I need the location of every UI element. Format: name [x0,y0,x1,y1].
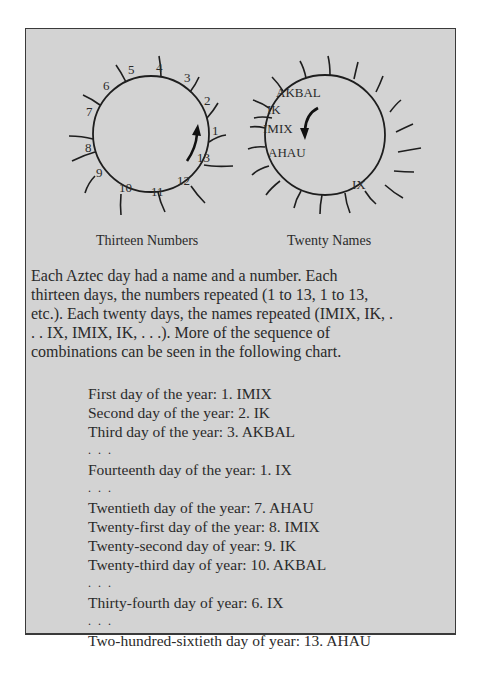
chart-row: Fourteenth day of the year: 1. IX [88,460,371,479]
chart-row: Twenty-first day of the year: 8. IMIX [88,517,371,536]
svg-text:IK: IK [267,102,281,117]
svg-text:IX: IX [352,177,366,192]
svg-text:11: 11 [151,184,164,199]
chart-row: Twenty-second day of year: 9. IK [88,536,371,555]
chart-row: Second day of the year: 2. IK [88,403,371,422]
svg-text:12: 12 [177,173,190,188]
svg-text:2: 2 [204,93,211,108]
ellipsis-row: . . . [88,574,371,593]
paragraph-line: Each Aztec day had a name and a number. … [31,266,431,285]
svg-text:8: 8 [85,140,92,155]
svg-text:7: 7 [86,104,93,119]
explanation-paragraph: Each Aztec day had a name and a number. … [31,266,431,361]
svg-text:10: 10 [119,180,132,195]
svg-text:1: 1 [212,123,219,138]
svg-text:4: 4 [156,60,163,75]
chart-row: Third day of the year: 3. AKBAL [88,422,371,441]
right-wheel-caption: Twenty Names [287,233,371,249]
chart-row: Twentieth day of the year: 7. AHAU [88,498,371,517]
left-wheel-caption: Thirteen Numbers [96,233,198,249]
paragraph-line: thirteen days, the numbers repeated (1 t… [31,285,431,304]
name-labels: AKBAL IK IMIX AHAU IX [263,85,366,192]
svg-text:6: 6 [103,78,110,93]
chart-row: Thirty-fourth day of year: 6. IX [88,593,371,612]
calendar-wheels-diagram: 1 2 3 4 5 6 7 8 9 10 11 12 13 [0,0,478,260]
svg-text:13: 13 [197,150,210,165]
paragraph-line: combinations can be seen in the followin… [31,342,431,361]
thirteen-numbers-wheel: 1 2 3 4 5 6 7 8 9 10 11 12 13 [69,56,233,215]
svg-text:AKBAL: AKBAL [276,85,321,100]
paragraph-line: . . IX, IMIX, IK, . . .). More of the se… [31,323,431,342]
chart-row: Twenty-third day of year: 10. AKBAL [88,555,371,574]
ellipsis-row: . . . [88,441,371,460]
ellipsis-row: . . . [88,479,371,498]
svg-text:5: 5 [128,62,135,77]
counterclockwise-arrow-icon [300,108,318,140]
paragraph-line: etc.). Each twenty days, the names repea… [31,304,431,323]
svg-text:3: 3 [184,70,191,85]
chart-row: Two-hundred-sixtieth day of year: 13. AH… [88,631,371,650]
svg-text:IMIX: IMIX [263,121,293,136]
twenty-names-wheel: AKBAL IK IMIX AHAU IX [248,56,421,214]
chart-row: First day of the year: 1. IMIX [88,384,371,403]
svg-text:AHAU: AHAU [268,145,306,160]
ellipsis-row: . . . [88,612,371,631]
svg-text:9: 9 [96,165,103,180]
day-sequence-chart: First day of the year: 1. IMIX Second da… [88,384,371,650]
